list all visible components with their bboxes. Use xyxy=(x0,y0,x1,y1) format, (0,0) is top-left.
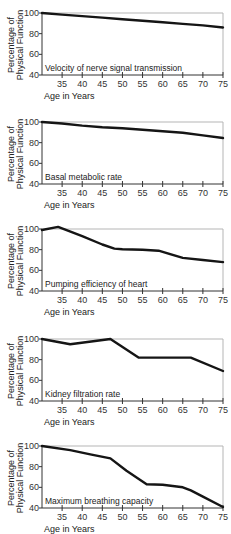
x-tick-label: 60 xyxy=(158,512,168,522)
y-tick-label: 60 xyxy=(29,482,39,492)
x-tick-label: 70 xyxy=(198,512,208,522)
x-tick-label: 40 xyxy=(77,512,87,522)
x-tick-label: 35 xyxy=(57,512,67,522)
chart-panel-5: Percentage ofPhysical Function1008060403… xyxy=(0,0,231,105)
x-tick-label: 45 xyxy=(97,512,107,522)
x-tick-label: 75 xyxy=(218,512,228,522)
x-tick-label: 55 xyxy=(138,512,148,522)
y-tick-label: 100 xyxy=(24,441,39,451)
y-tick-label: 80 xyxy=(29,462,39,472)
x-axis-title: Age in Years xyxy=(44,524,95,534)
y-tick-label: 40 xyxy=(29,503,39,513)
chart-caption: Maximum breathing capacity xyxy=(45,496,154,506)
x-tick-label: 50 xyxy=(117,512,127,522)
x-tick-label: 65 xyxy=(178,512,188,522)
